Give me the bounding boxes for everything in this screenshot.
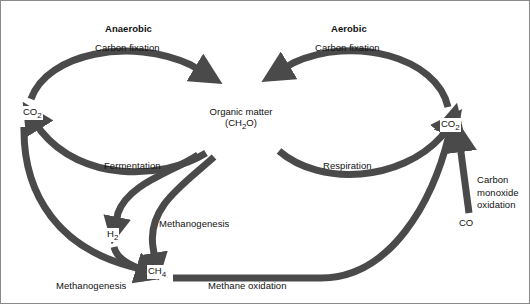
node-h2-subscript: 2 (114, 233, 118, 242)
label-methanogenesis-bottom: Methanogenesis (56, 280, 126, 292)
node-ch4-formula: CH (148, 265, 162, 276)
node-co2-right-subscript: 2 (455, 123, 459, 132)
label-cmo-line1: Carbon (477, 174, 508, 185)
label-respiration: Respiration (323, 160, 372, 172)
node-co2-right-formula: CO (441, 118, 455, 129)
label-cmo-line2: monoxide (477, 187, 519, 198)
arrow-methane-oxidation (173, 127, 451, 278)
node-h2: H2 (106, 228, 119, 242)
label-carbon-fixation-aerobic: Carbon fixation (315, 42, 380, 54)
label-fermentation: Fermentation (104, 160, 161, 172)
node-ch4: CH4 (147, 265, 167, 279)
node-co-formula: CO (459, 217, 473, 228)
arrow-carbon-monoxide-oxidation (460, 145, 469, 213)
node-organic-matter-line1: Organic matter (198, 106, 284, 117)
node-co2-right: CO2 (440, 118, 461, 132)
node-co2-left-formula: CO (23, 106, 37, 117)
label-carbon-fixation-anaerobic: Carbon fixation (95, 42, 160, 54)
arrow-carbon-fixation-aerobic (283, 51, 448, 107)
node-co2-left-subscript: 2 (37, 111, 41, 120)
heading-anaerobic: Anaerobic (105, 23, 152, 35)
node-co: CO (458, 217, 474, 228)
node-h2-formula: H (107, 228, 114, 239)
label-cmo-line3: oxidation (477, 199, 515, 210)
node-organic-matter-formula-pre: (CH (225, 117, 242, 128)
node-ch4-subscript: 4 (162, 270, 166, 279)
arrow-carbon-fixation-anaerobic (31, 51, 201, 99)
node-co2-left: CO2 (22, 106, 43, 120)
node-organic-matter-line2: (CH2O) (198, 117, 284, 131)
node-organic-matter: Organic matter (CH2O) (197, 106, 285, 131)
label-methanogenesis-middle: Methanogenesis (159, 218, 229, 230)
carbon-cycle-diagram: Anaerobic Aerobic Carbon fixation Carbon… (0, 0, 530, 304)
arrow-layer (1, 1, 530, 304)
label-carbon-monoxide-oxidation: Carbon monoxide oxidation (477, 174, 529, 212)
label-methane-oxidation: Methane oxidation (208, 280, 287, 292)
node-organic-matter-formula-post: O) (246, 117, 257, 128)
heading-aerobic: Aerobic (331, 23, 367, 35)
